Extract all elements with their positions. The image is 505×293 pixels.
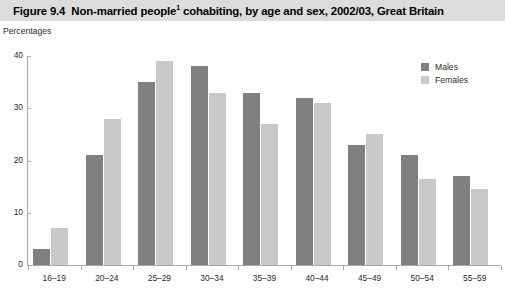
bar-group-55-59 <box>448 56 501 265</box>
x-tick-mark <box>28 266 29 270</box>
bar-group-45-49 <box>343 56 396 265</box>
bar-males-45-49 <box>348 145 365 265</box>
bar-males-20-24 <box>86 155 103 265</box>
bar-males-25-29 <box>138 82 155 265</box>
page-title: Figure 9.4 Non-married people1 cohabitin… <box>0 4 444 17</box>
legend-swatch-females <box>421 76 429 84</box>
x-tick-mark <box>291 266 292 270</box>
x-tick-mark <box>81 266 82 270</box>
y-tick-label: 40 <box>14 50 23 60</box>
bar-males-40-44 <box>296 98 313 265</box>
bar-males-55-59 <box>453 176 470 265</box>
bar-females-50-54 <box>419 179 436 265</box>
y-tick-label: 30 <box>14 102 23 112</box>
x-tick-mark <box>396 266 397 270</box>
x-category-label: 25–29 <box>148 273 171 283</box>
bar-females-55-59 <box>471 189 488 265</box>
bar-group-40-44 <box>291 56 344 265</box>
x-category-label: 40–44 <box>305 273 328 283</box>
bar-males-50-54 <box>401 155 418 265</box>
x-category-label: 16–19 <box>43 273 66 283</box>
bar-females-45-49 <box>366 134 383 265</box>
bar-group-50-54 <box>396 56 449 265</box>
x-tick-mark <box>238 266 239 270</box>
x-tick-mark <box>448 266 449 270</box>
x-category-label: 30–34 <box>200 273 223 283</box>
figure-title-banner: Figure 9.4 Non-married people1 cohabitin… <box>0 0 505 21</box>
legend-label-males: Males <box>435 62 458 72</box>
bar-group-30-34 <box>186 56 239 265</box>
y-tick-label: 10 <box>14 207 23 217</box>
x-category-label: 50–54 <box>411 273 434 283</box>
x-axis-labels: 16–1920–2425–2930–3435–3940–4445–4950–54… <box>28 266 501 293</box>
figure-title-rest: cohabiting, by age and sex, 2002/03, Gre… <box>180 5 444 17</box>
bar-females-30-34 <box>209 93 226 265</box>
x-tick-mark <box>343 266 344 270</box>
legend-item-males: Males <box>421 60 468 73</box>
chart-legend: MalesFemales <box>421 60 468 86</box>
figure-title-main: Non-married people <box>71 5 176 17</box>
legend-label-females: Females <box>435 75 468 85</box>
x-category-label: 20–24 <box>95 273 118 283</box>
bar-females-40-44 <box>314 103 331 265</box>
legend-swatch-males <box>421 63 429 71</box>
x-tick-mark <box>133 266 134 270</box>
units-label: Percentages <box>3 26 51 36</box>
bar-group-35-39 <box>238 56 291 265</box>
bar-females-25-29 <box>156 61 173 265</box>
x-category-label: 55–59 <box>463 273 486 283</box>
bar-females-20-24 <box>104 119 121 265</box>
legend-item-females: Females <box>421 73 468 86</box>
bar-males-16-19 <box>33 249 50 265</box>
bar-group-25-29 <box>133 56 186 265</box>
figure-number: Figure 9.4 <box>13 5 65 17</box>
x-category-label: 45–49 <box>358 273 381 283</box>
y-tick-label: 0 <box>18 259 23 269</box>
x-category-label: 35–39 <box>253 273 276 283</box>
bar-females-35-39 <box>261 124 278 265</box>
x-tick-mark <box>501 266 502 270</box>
bar-group-20-24 <box>81 56 134 265</box>
bar-males-30-34 <box>191 66 208 265</box>
bar-females-16-19 <box>51 228 68 265</box>
x-tick-mark <box>186 266 187 270</box>
y-tick-label: 20 <box>14 155 23 165</box>
bar-group-16-19 <box>28 56 81 265</box>
bar-males-35-39 <box>243 93 260 265</box>
